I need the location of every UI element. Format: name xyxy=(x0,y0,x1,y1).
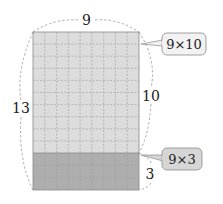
callout-9x10: 9×10 xyxy=(141,33,206,55)
bottom-section-rect xyxy=(33,153,139,190)
area-model-diagram: 9 13 10 3 9×10 9×3 xyxy=(0,0,223,204)
left-dimension-label: 13 xyxy=(12,100,30,116)
callout-9x3-text: 9×3 xyxy=(168,152,195,167)
right-upper-dimension-label: 10 xyxy=(142,88,160,104)
top-dimension-label: 9 xyxy=(82,12,91,28)
callout-9x10-text: 9×10 xyxy=(166,37,202,52)
right-lower-dimension-label: 3 xyxy=(146,166,155,182)
